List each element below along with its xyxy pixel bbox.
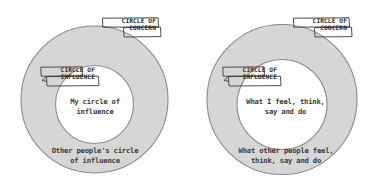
- right-circles-graphic: [190, 0, 381, 193]
- diagram-canvas: CIRCLE OF CONCERN CIRCLE OF INFLUENCE My…: [0, 0, 381, 193]
- left-circles-graphic: [0, 0, 190, 193]
- inner-circle-influence: [237, 60, 327, 150]
- circle-of-influence-diagram-right: CIRCLE OF CONCERN CIRCLE OF INFLUENCE Wh…: [190, 0, 381, 193]
- inner-circle-influence: [56, 66, 134, 144]
- circle-of-influence-diagram-left: CIRCLE OF CONCERN CIRCLE OF INFLUENCE My…: [0, 0, 190, 193]
